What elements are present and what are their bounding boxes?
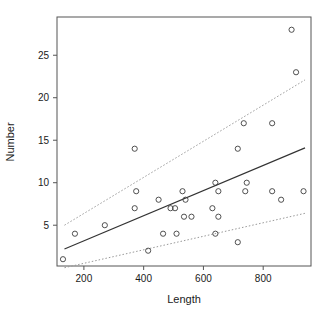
x-axis-title: Length (167, 293, 201, 305)
y-axis-title: Number (4, 122, 16, 161)
x-tick-label: 600 (195, 273, 212, 284)
y-tick-label: 10 (38, 177, 50, 188)
y-tick-label: 25 (38, 50, 50, 61)
y-tick-label: 5 (43, 220, 49, 231)
y-tick-label: 15 (38, 135, 50, 146)
x-tick-label: 800 (255, 273, 272, 284)
scatter-plot-figure: 200400600800 510152025 Length Number (0, 0, 334, 314)
plot-canvas: 200400600800 510152025 Length Number (0, 0, 334, 314)
x-tick-label: 200 (76, 273, 93, 284)
y-tick-label: 20 (38, 92, 50, 103)
x-tick-label: 400 (135, 273, 152, 284)
